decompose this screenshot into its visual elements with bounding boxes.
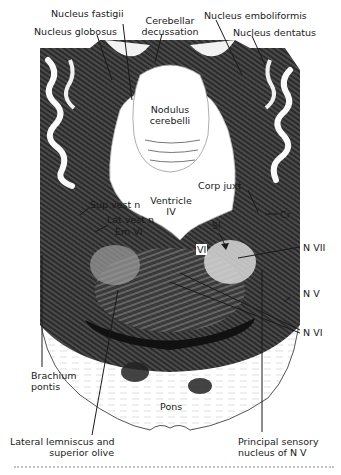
label-cerebellar-decussation: Cerebellar decussation [138, 15, 202, 37]
anatomical-figure: Nucleus fastigii Nucleus globosus Cerebe… [0, 0, 341, 475]
label-brachium-line2: pontis [31, 381, 76, 392]
label-n-v: N V [303, 288, 320, 299]
label-nodulus-line2: cerebelli [140, 115, 200, 126]
label-brachium-pontis: Brachium pontis [31, 370, 76, 392]
label-lateral-lemniscus: Lateral lemniscus and superior olive [10, 436, 114, 458]
label-sl: Sl [212, 220, 221, 231]
label-nucleus-dentatus: Nucleus dentatus [233, 27, 316, 38]
label-em-vi: Em VI [115, 226, 143, 237]
label-n-vi: N VI [303, 327, 322, 338]
label-ventricle-line1: Ventricle [146, 195, 196, 206]
label-principal-sensory-nucleus: Principal sensory nucleus of N V [238, 436, 319, 458]
label-lat-lemn-line1: Lateral lemniscus and [10, 436, 114, 447]
label-nucleus-emboliformis: Nucleus emboliformis [204, 10, 307, 21]
label-nodulus-cerebelli: Nodulus cerebelli [140, 104, 200, 126]
label-sup-vest-n: Sup vest n [90, 199, 140, 210]
label-nucleus-fastigii: Nucleus fastigii [51, 8, 124, 19]
tissue-section [40, 40, 300, 430]
label-corp-juxt: Corp juxt [198, 180, 241, 191]
label-cerebellar-decussation-line2: decussation [138, 26, 202, 37]
label-princ-sens-line1: Principal sensory [238, 436, 319, 447]
label-nucleus-globosus: Nucleus globosus [34, 26, 117, 37]
label-cerebellar-decussation-line1: Cerebellar [138, 15, 202, 26]
label-lat-lemn-line2: superior olive [10, 447, 114, 458]
label-pons: Pons [160, 401, 182, 412]
label-lat-vest-n: Lat vest n [107, 214, 154, 225]
label-nodulus-line1: Nodulus [140, 104, 200, 115]
label-n-vii: N VII [303, 242, 325, 253]
label-cr: Cr [280, 209, 291, 220]
cut-off-caption-text [14, 466, 334, 471]
label-brachium-line1: Brachium [31, 370, 76, 381]
label-princ-sens-line2: nucleus of N V [238, 447, 319, 458]
label-vi: VI [196, 244, 207, 255]
